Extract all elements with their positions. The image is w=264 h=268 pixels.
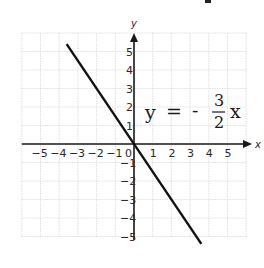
y-tick-label: 1 bbox=[126, 120, 133, 133]
equation-equals: = bbox=[166, 100, 182, 122]
x-tick-label: 5 bbox=[225, 147, 232, 160]
x-tick-label: 3 bbox=[187, 147, 194, 160]
y-tick-label: 5 bbox=[126, 46, 133, 59]
x-axis-label: x bbox=[254, 139, 261, 150]
equation-variable: x bbox=[230, 100, 241, 122]
x-tick-label: 2 bbox=[168, 147, 175, 160]
y-tick-label: 3 bbox=[126, 83, 133, 96]
x-tick-label: −5 bbox=[32, 147, 48, 160]
y-tick-label: −3 bbox=[120, 194, 136, 207]
y-tick-label: −2 bbox=[120, 175, 136, 188]
x-tick-label: 1 bbox=[150, 147, 157, 160]
equation-sign: - bbox=[192, 99, 198, 121]
y-axis-arrow-icon bbox=[130, 33, 138, 42]
equation-lhs: y bbox=[144, 101, 156, 123]
x-axis-arrow-icon bbox=[243, 140, 252, 148]
x-tick-label: −2 bbox=[88, 147, 104, 160]
y-tick-label: 4 bbox=[126, 64, 133, 77]
y-axis-label: y bbox=[130, 18, 138, 29]
y-tick-label: 2 bbox=[126, 101, 133, 114]
clipped-glyph-fragment bbox=[205, 0, 211, 3]
equation-numerator: 3 bbox=[214, 91, 224, 110]
x-tick-label: −4 bbox=[50, 147, 66, 160]
x-tick-label: −3 bbox=[69, 147, 85, 160]
y-tick-label: −1 bbox=[120, 157, 136, 170]
y-tick-label: −4 bbox=[120, 212, 136, 225]
equation-denominator: 2 bbox=[214, 113, 224, 132]
y-tick-label: −5 bbox=[120, 231, 136, 244]
coordinate-plane: −5−4−3−2−101234554321−1−2−3−4−5 y x y = … bbox=[0, 0, 264, 268]
axes bbox=[22, 33, 252, 240]
x-tick-label: 4 bbox=[206, 147, 213, 160]
